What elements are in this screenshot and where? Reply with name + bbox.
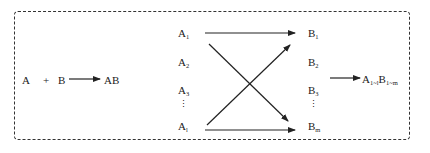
arrow-al-to-b1 (207, 45, 290, 125)
arrows-layer (0, 0, 430, 153)
arrow-a1-to-bm (209, 44, 288, 121)
